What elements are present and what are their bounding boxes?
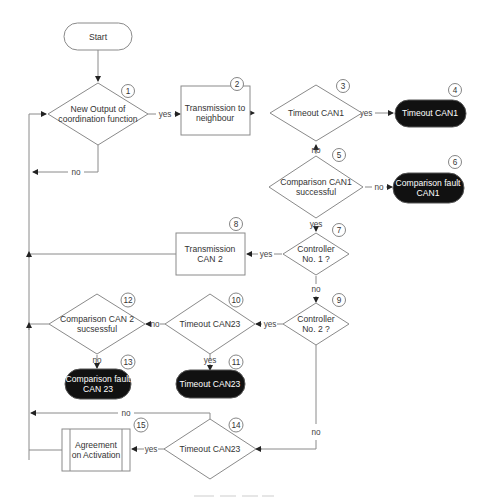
node-12-label-line2: sucsessful bbox=[77, 324, 117, 334]
flowchart-canvas: yes no yes no no yes yes no yes no yes n… bbox=[0, 0, 486, 499]
node-13-label-line1: Comparison fault bbox=[66, 374, 132, 384]
edge-label-10-no: no bbox=[150, 320, 160, 329]
step-number-15: 15 bbox=[136, 421, 146, 430]
node-2-process: Transmission to neighbour 2 bbox=[181, 78, 250, 136]
edge-label-3-no: no bbox=[311, 146, 321, 155]
edge-label-9-yes: yes bbox=[264, 320, 277, 329]
start-label: Start bbox=[89, 32, 108, 42]
step-number-9: 9 bbox=[337, 296, 342, 305]
node-8-label-line2: CAN 2 bbox=[197, 254, 223, 264]
node-14-decision: Timeout CAN23 14 bbox=[164, 418, 256, 479]
node-5-decision: Comparison CAN1 successful 5 bbox=[269, 149, 363, 219]
node-3-label: Timeout CAN1 bbox=[288, 108, 344, 118]
edge-1-no-a bbox=[84, 145, 98, 172]
node-11-label: Timeout CAN23 bbox=[180, 379, 241, 389]
node-4-label: Timeout CAN1 bbox=[402, 108, 458, 118]
node-6-label-line2: CAN1 bbox=[417, 188, 440, 198]
node-15-label-line2: on Activation bbox=[72, 450, 121, 460]
node-13-label-line2: CAN 23 bbox=[83, 384, 113, 394]
node-14-label: Timeout CAN23 bbox=[180, 444, 241, 454]
node-1-label-line2: coordination function bbox=[58, 114, 138, 124]
edge-label-1-yes: yes bbox=[159, 110, 172, 119]
step-number-6: 6 bbox=[453, 158, 458, 167]
node-7-label-line2: No. 1 ? bbox=[302, 254, 330, 264]
node-15-predefined-process: Agreement on Activation 15 bbox=[62, 418, 148, 471]
node-6-terminal: Comparison fault CAN1 6 bbox=[393, 156, 464, 204]
step-number-7: 7 bbox=[337, 226, 342, 235]
node-10-decision: Timeout CAN23 10 bbox=[165, 293, 255, 354]
node-9-label-line2: No. 2 ? bbox=[302, 324, 330, 334]
node-3-decision: Timeout CAN1 3 bbox=[270, 80, 362, 142]
node-7-label-line1: Controller bbox=[297, 244, 334, 254]
edge-label-5-no: no bbox=[374, 183, 384, 192]
edge-14-no-a bbox=[134, 413, 210, 419]
node-5-label-line2: successful bbox=[296, 187, 336, 197]
step-number-10: 10 bbox=[231, 296, 241, 305]
edge-9-to-14-b bbox=[257, 440, 316, 449]
node-15-label-line1: Agreement bbox=[75, 440, 118, 450]
node-12-label-line1: Comparison CAN 2 bbox=[60, 314, 134, 324]
node-6-label-line1: Comparison fault bbox=[396, 178, 462, 188]
step-number-14: 14 bbox=[231, 421, 241, 430]
node-8-label-line1: Transmission bbox=[185, 244, 236, 254]
caption-fragment-2 bbox=[220, 495, 236, 497]
caption-fragment-1 bbox=[194, 495, 214, 497]
step-number-5: 5 bbox=[337, 151, 342, 160]
node-4-terminal: Timeout CAN1 4 bbox=[395, 84, 466, 128]
edge-label-12-no: no bbox=[92, 356, 102, 365]
edge-label-7-yes: yes bbox=[260, 250, 273, 259]
caption-fragment-3 bbox=[242, 495, 258, 497]
node-start: Start bbox=[64, 23, 132, 50]
edge-label-14-yes: yes bbox=[145, 445, 158, 454]
step-number-12: 12 bbox=[123, 296, 133, 305]
node-7-decision: Controller No. 1 ? 7 bbox=[283, 224, 349, 276]
edge-label-14-no: no bbox=[121, 409, 131, 418]
step-number-8: 8 bbox=[234, 220, 239, 229]
step-number-13: 13 bbox=[123, 358, 133, 367]
node-10-label: Timeout CAN23 bbox=[180, 319, 241, 329]
node-8-process: Transmission CAN 2 8 bbox=[176, 218, 245, 276]
edge-label-10-yes: yes bbox=[204, 356, 217, 365]
node-1-decision: New Output of coordination function 1 bbox=[48, 83, 148, 145]
step-number-2: 2 bbox=[235, 80, 240, 89]
step-number-3: 3 bbox=[341, 82, 346, 91]
node-2-label-line1: Transmission to bbox=[185, 103, 246, 113]
step-number-11: 11 bbox=[232, 358, 241, 367]
edge-label-5-yes: yes bbox=[310, 220, 323, 229]
node-12-decision: Comparison CAN 2 sucsessful 12 bbox=[49, 293, 145, 354]
caption-fragment-4 bbox=[262, 495, 274, 497]
edge-label-9-no: no bbox=[311, 428, 321, 437]
figure-caption-faded bbox=[194, 495, 274, 497]
node-9-label-line1: Controller bbox=[297, 314, 334, 324]
node-2-label-line2: neighbour bbox=[196, 113, 234, 123]
edge-label-7-no: no bbox=[311, 285, 321, 294]
node-1-label-line1: New Output of bbox=[71, 104, 127, 114]
step-number-1: 1 bbox=[126, 87, 131, 96]
edge-label-1-no: no bbox=[71, 168, 81, 177]
node-5-label-line1: Comparison CAN1 bbox=[280, 177, 352, 187]
step-number-4: 4 bbox=[453, 86, 458, 95]
